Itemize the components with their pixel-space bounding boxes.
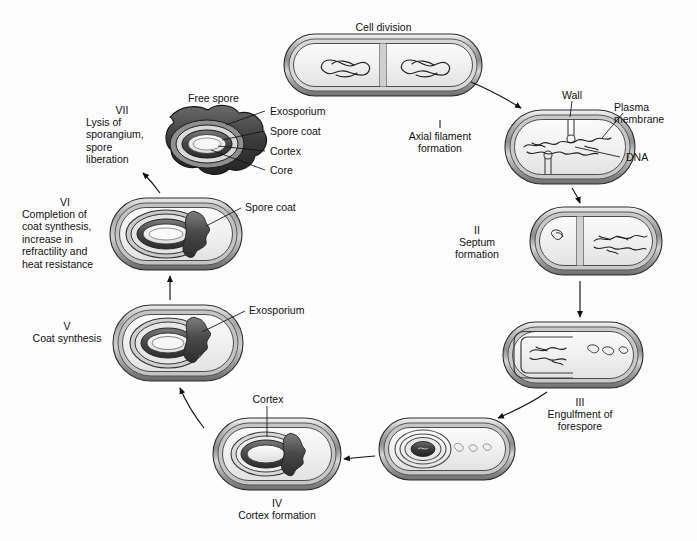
- cell-division-label: Cell division: [296, 21, 471, 33]
- arrow-6-to-7: [143, 173, 160, 193]
- stage-3-to-4-graphic: [379, 418, 515, 480]
- stage-5-graphic: [113, 305, 243, 381]
- stage-2-name: Septum formation: [437, 236, 517, 261]
- core-label: Core: [270, 164, 360, 176]
- sporulation-diagram: Cell division I Axial filament formation…: [0, 0, 697, 541]
- exosporium-stage5-label: Exosporium: [249, 304, 333, 316]
- stage-1-roman: I: [390, 118, 490, 130]
- stage-3-roman: III: [528, 396, 632, 408]
- stage-6-name: Completion of coat synthesis, increase i…: [22, 208, 114, 270]
- stage-7-roman: VII: [86, 104, 158, 116]
- stage-3-graphic: [503, 322, 643, 388]
- arrow-1-to-2: [572, 188, 580, 203]
- dna-label: DNA: [626, 151, 676, 163]
- plasma-membrane-label: Plasma membrane: [614, 101, 692, 126]
- cortex-label: Cortex: [270, 145, 360, 157]
- arrow-4a: [344, 456, 375, 459]
- stage-5-roman: V: [21, 320, 113, 332]
- stage-3-name: Engulfment of forespore: [528, 408, 632, 433]
- free-spore-label: Free spore: [188, 92, 278, 104]
- stage-2-graphic: [530, 207, 662, 275]
- spore-coat-stage6-label: Spore coat: [245, 201, 329, 213]
- stage-4-graphic: [213, 418, 341, 490]
- spore-coat-label: Spore coat: [270, 125, 360, 137]
- wall-label: Wall: [540, 89, 604, 101]
- stage-6-graphic: [110, 198, 242, 270]
- exosporium-label: Exosporium: [270, 105, 360, 117]
- cell-division-graphic: [284, 34, 482, 96]
- stage-5-name: Coat synthesis: [21, 332, 113, 344]
- stage-4-name: Cortex formation: [217, 509, 337, 521]
- stage-2-roman: II: [437, 224, 517, 236]
- cortex-stage4-label: Cortex: [237, 393, 299, 405]
- arrow-division-to-1: [471, 82, 521, 108]
- stage-7-name: Lysis of sporangium, spore liberation: [86, 116, 166, 166]
- stage-6-roman: VI: [22, 196, 108, 208]
- arrow-4-to-5: [180, 388, 204, 428]
- diagram-artwork: [0, 0, 697, 541]
- stage-4-roman: IV: [217, 497, 337, 509]
- stage-1-name: Axial filament formation: [390, 130, 490, 155]
